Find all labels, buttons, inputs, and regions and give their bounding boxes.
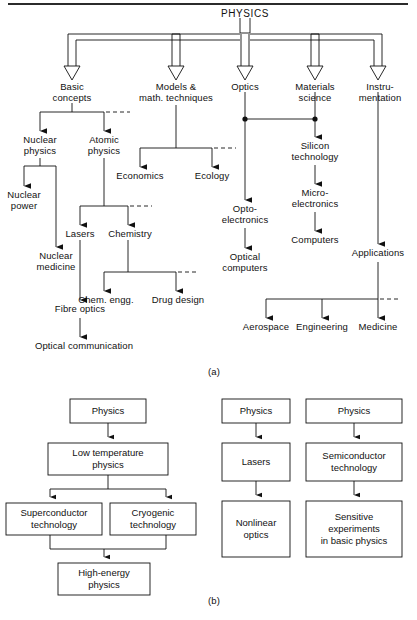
nuclear-medicine-branch <box>40 166 56 247</box>
box-physics-semiconductor <box>306 399 402 423</box>
node-fibre-optics: Fibre optics <box>55 303 105 314</box>
basic-concepts-split <box>40 103 130 131</box>
root-stub <box>240 18 250 33</box>
node-models-math-techniques: Models & math. techniques <box>139 81 213 103</box>
node-optical-computers: Optical computers <box>222 251 267 273</box>
node-optics: Optics <box>231 81 259 92</box>
node-basic-concepts: Basic concepts <box>53 81 92 103</box>
node-microelectronics: Micro- electronics <box>292 187 339 209</box>
node-optoelectronics: Opto- electronics <box>222 203 269 225</box>
node-instrumentation: Instru- mentation <box>359 81 402 103</box>
node-ecology: Ecology <box>195 170 230 181</box>
box-lasers <box>222 443 290 481</box>
box-cryogenic-technology <box>110 503 196 535</box>
box-physics-lasers <box>222 399 290 423</box>
node-physics-root: PHYSICS <box>221 8 269 19</box>
panel-b-graphics <box>6 399 402 595</box>
applications-split <box>266 262 400 318</box>
box-sensitive-experiments <box>306 501 402 557</box>
node-applications: Applications <box>352 247 404 258</box>
node-silicon-technology: Silicon technology <box>292 140 339 162</box>
node-nuclear-power: Nuclear power <box>7 189 40 211</box>
node-materials-science: Materials science <box>295 81 334 103</box>
node-nuclear-physics: Nuclear physics <box>23 134 56 156</box>
caption-panel-b: (b) <box>208 595 220 606</box>
box-nonlinear-optics <box>222 501 290 557</box>
node-optical-communication: Optical communication <box>35 340 133 351</box>
node-engineering: Engineering <box>296 321 348 332</box>
box-semiconductor-technology <box>306 443 402 481</box>
root-distribution-bus <box>68 34 382 66</box>
box-low-temperature-physics <box>48 443 168 475</box>
box-physics-lowtemp <box>70 399 146 423</box>
node-chemistry: Chemistry <box>108 228 152 239</box>
node-drug-design: Drug design <box>152 294 204 305</box>
node-computers: Computers <box>291 234 338 245</box>
node-economics: Economics <box>116 170 163 181</box>
figure-page: PHYSICS Basic concepts Models & math. te… <box>0 0 417 620</box>
atomic-physics-split <box>80 158 152 225</box>
models-split <box>140 105 236 167</box>
node-nuclear-medicine: Nuclear medicine <box>37 250 76 272</box>
node-atomic-physics: Atomic physics <box>88 134 120 156</box>
caption-panel-a: (a) <box>208 366 220 377</box>
chemistry-split <box>104 240 196 291</box>
bus-open-arrowheads <box>64 66 386 80</box>
node-medicine: Medicine <box>359 321 398 332</box>
box-high-energy-physics <box>58 563 150 595</box>
node-aerospace: Aerospace <box>243 321 289 332</box>
box-superconductor-technology <box>6 503 102 535</box>
nuclear-physics-branch <box>24 158 40 186</box>
node-lasers: Lasers <box>65 228 94 239</box>
